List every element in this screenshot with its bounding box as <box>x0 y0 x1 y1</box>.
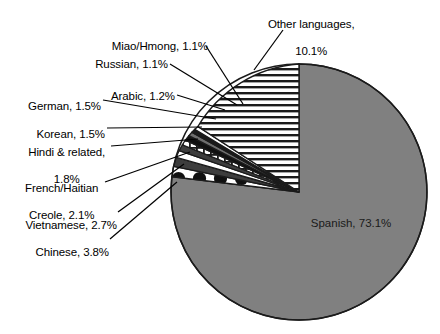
pie-label-german-text: German, 1.5% <box>28 100 101 112</box>
pie-label-spanish: Spanish, 73.1% <box>298 205 391 241</box>
pie-label-chinese-text: Chinese, 3.8% <box>36 246 110 258</box>
pie-label-chinese: Chinese, 3.8% <box>6 232 109 273</box>
pie-label-other-languages: Other languages, 10.1% <box>240 4 370 72</box>
pie-label-arabic-text: Arabic, 1.2% <box>111 90 175 102</box>
pie-label-other-languages-line1: Other languages, <box>268 18 355 30</box>
pie-label-russian-text: Russian, 1.1% <box>95 58 168 70</box>
pie-label-spanish-text: Spanish, 73.1% <box>311 217 392 229</box>
pie-label-french-line1: French/Haitian <box>25 182 98 194</box>
pie-label-other-languages-line2: 10.1% <box>295 45 327 57</box>
pie-label-vietnamese-text: Vietnamese, 2.7% <box>25 219 117 231</box>
leader-line-russian <box>170 64 237 105</box>
pie-slices <box>171 64 427 320</box>
pie-chart-figure: Other languages, 10.1% Miao/Hmong, 1.1% … <box>0 0 440 334</box>
pie-label-hindi-line1: Hindi & related, <box>28 146 105 158</box>
